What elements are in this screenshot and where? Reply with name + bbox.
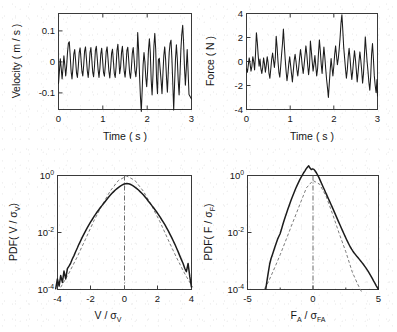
velocity-xtick-3: 3 bbox=[189, 113, 194, 124]
velocity-ytick-0: 0.1 bbox=[42, 25, 55, 36]
velocity-pdf-ytick-0: 100 bbox=[40, 169, 55, 181]
velocity-xtick-2: 2 bbox=[145, 113, 150, 124]
velocity-pdf-yaxis-label: PDF( V / σV) bbox=[7, 203, 21, 261]
force-xtick-3: 3 bbox=[375, 113, 380, 124]
velocity-pdf-gaussian-reference bbox=[61, 176, 193, 287]
force-ytick-4: -4 bbox=[235, 104, 243, 115]
velocity-pdf-data-line bbox=[56, 184, 192, 289]
force-pdf-yaxis-label: PDF( F / σF) bbox=[202, 204, 216, 261]
force-pdf-data-line bbox=[266, 166, 379, 289]
velocity-xtick-1: 1 bbox=[100, 113, 105, 124]
svg-text:FA / σFA: FA / σFA bbox=[291, 309, 326, 323]
velocity-xaxis-label: Time ( s ) bbox=[103, 130, 147, 142]
force-pdf-ytick-2: 10-4 bbox=[227, 283, 244, 295]
velocity-pdf-ytick-1: 10-2 bbox=[37, 226, 54, 238]
velocity-pdf-xtick-2: 0 bbox=[122, 293, 127, 304]
force-pdf-xtick-1: 0 bbox=[310, 293, 315, 304]
force-ytick-1: 2 bbox=[238, 32, 243, 43]
plot-force-timeseries: 4 2 0 -2 -4 0 1 2 3 Time ( s ) Force ( N… bbox=[198, 0, 397, 166]
velocity-yaxis-label: Velocity ( m / s ) bbox=[10, 24, 22, 99]
force-xaxis-label: Time ( s ) bbox=[290, 130, 334, 142]
force-ytick-2: 0 bbox=[238, 56, 243, 67]
velocity-pdf-xtick-4: 4 bbox=[189, 293, 194, 304]
force-pdf-xaxis-label: FA / σFA bbox=[291, 309, 326, 323]
plot-velocity-pdf: 100 10-2 10-4 -4 -2 0 2 4 V / σV bbox=[0, 166, 198, 332]
force-xtick-2: 2 bbox=[331, 113, 336, 124]
force-data-line bbox=[247, 15, 378, 98]
force-ytick-0: 4 bbox=[238, 8, 243, 19]
velocity-pdf-xtick-1: -2 bbox=[86, 293, 94, 304]
velocity-pdf-xtick-3: 2 bbox=[155, 293, 160, 304]
plot-force-pdf: 100 10-2 10-4 -5 0 5 FA / σFA PDF( bbox=[198, 166, 397, 332]
svg-text:PDF( F / σF): PDF( F / σF) bbox=[202, 204, 216, 261]
force-pdf-ytick-0: 100 bbox=[230, 169, 245, 181]
velocity-pdf-xtick-0: -4 bbox=[53, 293, 61, 304]
force-yaxis-label: Force ( N ) bbox=[204, 36, 216, 86]
force-pdf-xtick-0: -5 bbox=[243, 293, 251, 304]
velocity-ytick-1: 0 bbox=[50, 56, 55, 67]
force-pdf-tick-labels: 100 10-2 10-4 -5 0 5 bbox=[227, 169, 381, 304]
force-xtick-0: 0 bbox=[244, 113, 249, 124]
velocity-ytick-2: -0.1 bbox=[39, 87, 55, 98]
svg-text:PDF( V / σV): PDF( V / σV) bbox=[7, 203, 21, 261]
velocity-xtick-0: 0 bbox=[56, 113, 61, 124]
force-pdf-xtick-2: 5 bbox=[376, 293, 381, 304]
svg-text:V / σV: V / σV bbox=[95, 309, 122, 323]
figure-container: 0.1 0 -0.1 0 1 2 3 Time ( s ) Velocity (… bbox=[0, 0, 397, 332]
force-pdf-ytick-1: 10-2 bbox=[227, 226, 244, 238]
velocity-data-line bbox=[59, 25, 192, 111]
velocity-pdf-ytick-2: 10-4 bbox=[37, 283, 54, 295]
force-ytick-3: -2 bbox=[235, 80, 243, 91]
force-xtick-1: 1 bbox=[288, 113, 293, 124]
plot-velocity-timeseries: 0.1 0 -0.1 0 1 2 3 Time ( s ) Velocity (… bbox=[0, 0, 198, 166]
velocity-pdf-xaxis-label: V / σV bbox=[95, 309, 122, 323]
